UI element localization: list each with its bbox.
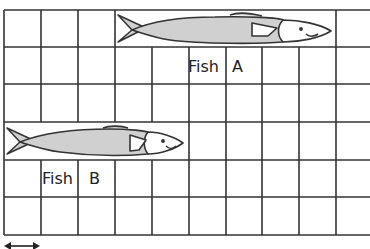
fish-b-label-word: Fish <box>42 171 73 187</box>
fish-a-icon <box>118 13 331 43</box>
double-arrow-icon <box>4 242 40 249</box>
measurement-grid <box>0 0 370 249</box>
grid-lines <box>4 10 370 235</box>
fish-a-label-word: Fish <box>188 59 219 75</box>
fish-b-label-letter: B <box>89 171 100 187</box>
fish-b-icon <box>7 126 183 155</box>
fish-a-label-letter: A <box>232 59 243 75</box>
